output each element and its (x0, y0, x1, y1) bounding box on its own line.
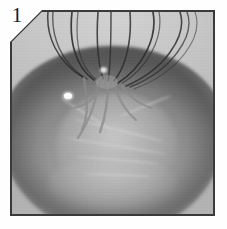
whisk-hub-highlight (100, 67, 107, 73)
photo-frame (10, 10, 215, 216)
whisk-wires (12, 12, 213, 214)
specular-highlight (64, 93, 72, 99)
panel-number-label: 1 (6, 2, 28, 28)
figure-panel: 1 (0, 0, 227, 229)
photograph (12, 12, 213, 214)
